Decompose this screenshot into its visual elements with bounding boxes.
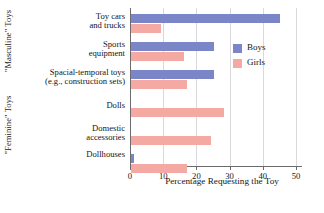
gridline — [230, 8, 231, 166]
category-line: (e.g., construction sets) — [13, 77, 125, 86]
gridline — [296, 8, 297, 166]
plot-area: 01020304050 — [130, 8, 296, 166]
category-line: accessories — [13, 133, 125, 142]
category-line: Dollhouses — [13, 150, 125, 159]
category-label-dollhouses: Dollhouses — [13, 150, 125, 159]
category-label-spacial-temporal: Spacial-temporal toys (e.g., constructio… — [13, 68, 125, 86]
legend: Boys Girls — [233, 42, 295, 72]
bar-boys-5 — [131, 154, 134, 163]
category-line: and trucks — [13, 21, 125, 30]
bar-girls-3 — [131, 108, 224, 117]
category-line: equipment — [13, 49, 125, 58]
x-axis-title: Percentage Requesting the Toy — [120, 176, 324, 186]
x-tick — [263, 166, 264, 170]
category-labels: Toy cars and trucks Sports equipment Spa… — [16, 8, 128, 166]
bar-girls-5 — [131, 164, 187, 173]
category-label-dolls: Dolls — [13, 101, 125, 110]
category-line: Dolls — [13, 101, 125, 110]
category-label-sports-equipment: Sports equipment — [13, 40, 125, 58]
x-tick — [230, 166, 231, 170]
x-tick — [296, 166, 297, 170]
legend-item-girls: Girls — [233, 57, 295, 72]
bar-girls-4 — [131, 136, 211, 145]
bar-girls-0 — [131, 24, 161, 33]
bar-girls-1 — [131, 52, 184, 61]
legend-label-boys: Boys — [247, 42, 266, 52]
legend-item-boys: Boys — [233, 42, 295, 57]
bar-boys-0 — [131, 14, 280, 23]
legend-swatch-girls-icon — [233, 59, 242, 68]
group-label-masculine: "Masculine" Toys — [3, 5, 13, 77]
gridline — [263, 8, 264, 166]
bar-boys-2 — [131, 70, 214, 79]
category-label-toy-cars: Toy cars and trucks — [13, 12, 125, 30]
x-tick — [196, 166, 197, 170]
category-label-domestic-accessories: Domestic accessories — [13, 124, 125, 142]
legend-swatch-boys-icon — [233, 44, 242, 53]
bar-girls-2 — [131, 80, 187, 89]
group-label-feminine: "Feminine" Toys — [3, 89, 13, 161]
bar-chart: "Masculine" Toys "Feminine" Toys Toy car… — [0, 0, 324, 213]
bar-boys-1 — [131, 42, 214, 51]
legend-label-girls: Girls — [247, 57, 265, 67]
